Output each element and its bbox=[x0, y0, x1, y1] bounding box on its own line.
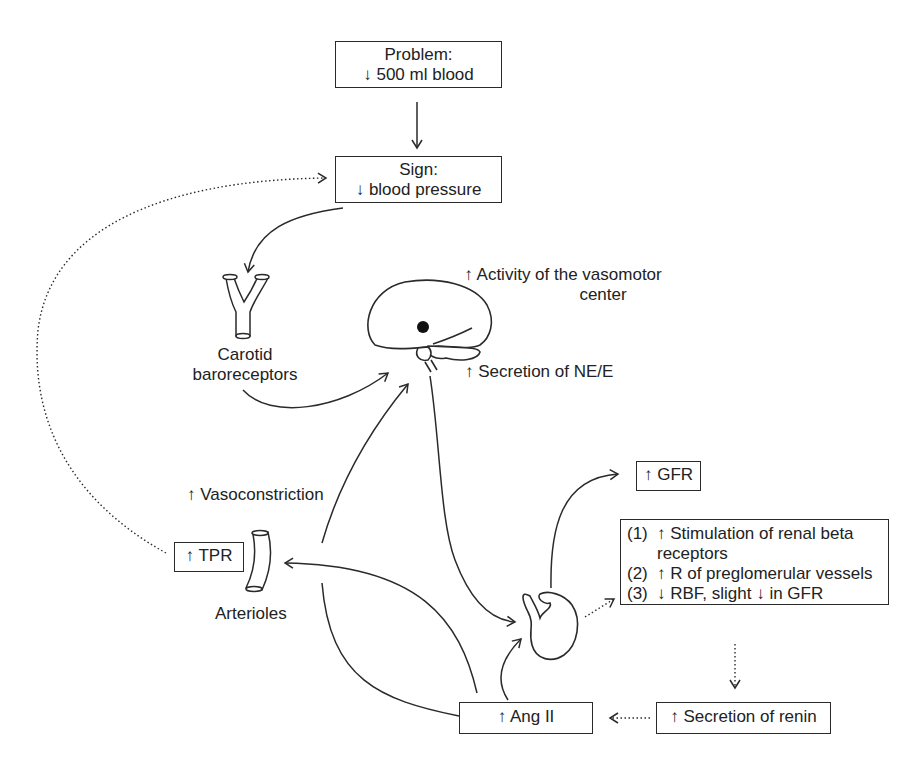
sign-title: Sign: bbox=[336, 160, 501, 180]
carotid-bifurcation-icon bbox=[223, 275, 269, 339]
renal-effect-item: (2) ↑ R of preglomerular vessels bbox=[627, 564, 882, 584]
ne-e-secretion-label: ↑ Secretion of NE/E bbox=[465, 362, 613, 382]
renal-effect-num: (1) bbox=[627, 524, 657, 544]
kidney-icon bbox=[523, 592, 578, 659]
problem-title: Problem: bbox=[336, 45, 501, 65]
renal-effect-num: (3) bbox=[627, 584, 657, 604]
carotid-label-line1: Carotid bbox=[185, 345, 305, 365]
arrow-vasoconstriction-to-brain bbox=[322, 384, 408, 543]
problem-detail: ↓ 500 ml blood bbox=[336, 65, 501, 85]
ang2-box: ↑ Ang II bbox=[459, 702, 593, 734]
vasomotor-label-line2: center bbox=[458, 285, 668, 305]
carotid-label: Carotid baroreceptors bbox=[185, 345, 305, 385]
tpr-box: ↑ TPR bbox=[174, 542, 244, 572]
vasomotor-label-line1: ↑ Activity of the vasomotor bbox=[458, 265, 668, 285]
vasoconstriction-label: ↑ Vasoconstriction bbox=[187, 485, 324, 505]
arterioles-label: Arterioles bbox=[215, 604, 287, 624]
renin-text: ↑ Secretion of renin bbox=[670, 707, 816, 726]
problem-box: Problem: ↓ 500 ml blood bbox=[335, 41, 502, 88]
arrow-brain-to-kidney bbox=[430, 376, 515, 622]
renal-effect-text: ↑ Stimulation of renal beta bbox=[657, 524, 854, 544]
arrow-kidney-to-gfr bbox=[551, 474, 618, 588]
renal-effect-text: ↓ RBF, slight ↓ in GFR bbox=[657, 584, 823, 604]
ang2-text: ↑ Ang II bbox=[498, 707, 555, 726]
diagram-connectors bbox=[0, 0, 924, 768]
tpr-text: ↑ TPR bbox=[186, 546, 233, 565]
carotid-label-line2: baroreceptors bbox=[185, 365, 305, 385]
gfr-text: ↑ GFR bbox=[644, 465, 693, 484]
sign-box: Sign: ↓ blood pressure bbox=[335, 156, 502, 203]
arrow-ang2-to-arterioles bbox=[285, 563, 477, 693]
vasomotor-label: ↑ Activity of the vasomotor center bbox=[458, 265, 668, 305]
arrow-sign-to-carotid bbox=[248, 208, 343, 272]
dotted-arrow-kidney-to-effects bbox=[585, 599, 614, 617]
renal-effects-box: (1) ↑ Stimulation of renal beta receptor… bbox=[620, 519, 889, 605]
renin-box: ↑ Secretion of renin bbox=[656, 702, 831, 734]
renal-effect-continuation: receptors bbox=[627, 544, 882, 564]
renal-effect-num: (2) bbox=[627, 564, 657, 584]
sign-detail: ↓ blood pressure bbox=[336, 180, 501, 200]
arteriole-vessel-icon bbox=[246, 531, 270, 592]
renal-effect-item: (3) ↓ RBF, slight ↓ in GFR bbox=[627, 584, 882, 604]
line-ang2-to-vasoconstriction bbox=[322, 583, 459, 716]
renal-effect-item: (1) ↑ Stimulation of renal beta bbox=[627, 524, 882, 544]
arrow-ang2-to-kidney bbox=[501, 639, 521, 700]
renal-effect-text: ↑ R of preglomerular vessels bbox=[657, 564, 872, 584]
gfr-box: ↑ GFR bbox=[636, 461, 701, 491]
